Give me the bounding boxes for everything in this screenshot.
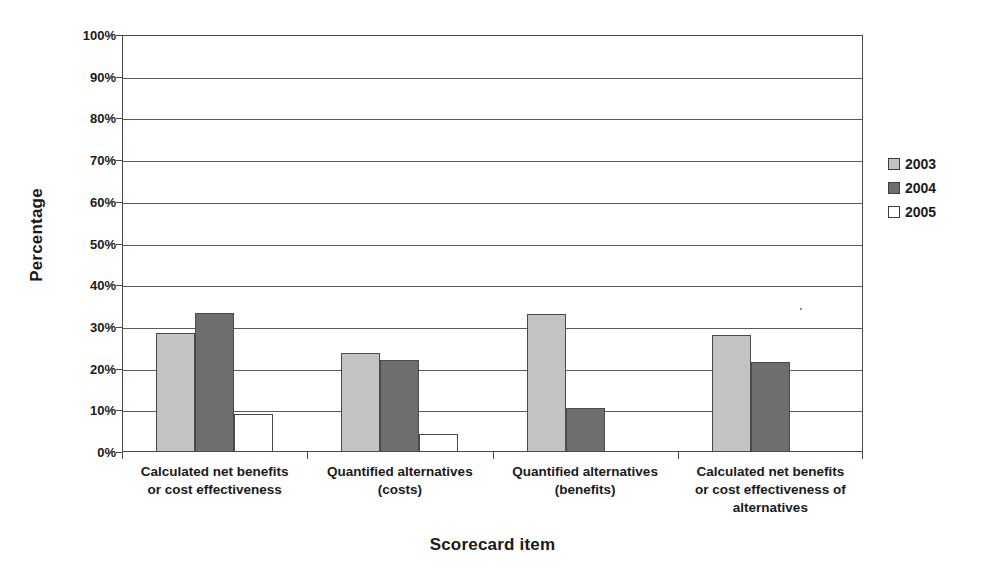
bar-chart: Percentage 0%10%20%30%40%50%60%70%80%90%… [0, 0, 996, 578]
legend: 200320042005 [888, 152, 984, 224]
legend-label: 2004 [905, 181, 936, 195]
y-axis-tick-label: 70% [90, 154, 116, 167]
legend-item-2003[interactable]: 2003 [888, 152, 984, 176]
y-axis-tick-label: 20% [90, 362, 116, 375]
x-axis-tick [493, 452, 494, 459]
legend-swatch-icon [888, 182, 900, 194]
bar-2004-2 [380, 360, 419, 452]
bar-series-layer [122, 35, 863, 452]
y-axis-tick-label: 0% [97, 446, 116, 459]
x-axis-category-label: Calculated net benefitsor cost effective… [110, 463, 319, 499]
legend-label: 2003 [905, 157, 936, 171]
x-axis-category-label: Quantified alternatives(costs) [295, 463, 504, 499]
bar-group [307, 35, 492, 452]
bar-2003-2 [341, 353, 380, 452]
bar-2003-1 [156, 333, 195, 452]
y-axis-tick-label: 90% [90, 70, 116, 83]
x-axis-category-label: Calculated net benefitsor cost effective… [666, 463, 875, 517]
x-axis-title: Scorecard item [122, 535, 863, 555]
y-axis-title: Percentage [14, 0, 60, 470]
y-axis-tick-label: 40% [90, 279, 116, 292]
y-axis-tick-label: 80% [90, 112, 116, 125]
bar-2003-3 [527, 314, 566, 452]
x-axis-tick-marks [122, 452, 863, 460]
bar-2005-1 [234, 414, 273, 452]
x-axis-tick [307, 452, 308, 459]
y-axis-title-text: Percentage [27, 188, 47, 282]
legend-label: 2005 [905, 205, 936, 219]
scan-speck [800, 308, 802, 310]
y-axis-tick-label: 10% [90, 404, 116, 417]
bar-group [122, 35, 307, 452]
y-axis-tick-labels: 0%10%20%30%40%50%60%70%80%90%100% [62, 35, 116, 452]
x-axis-category-labels: Calculated net benefitsor cost effective… [122, 463, 863, 525]
legend-swatch-icon [888, 206, 900, 218]
y-axis-tick-label: 100% [83, 29, 116, 42]
bar-2004-4 [751, 362, 790, 452]
x-axis-tick [678, 452, 679, 459]
bar-2004-1 [195, 313, 234, 452]
y-axis-tick-label: 50% [90, 237, 116, 250]
bar-2003-4 [712, 335, 751, 452]
x-axis-category-label: Quantified alternatives(benefits) [481, 463, 690, 499]
y-axis-tick-label: 30% [90, 320, 116, 333]
legend-swatch-icon [888, 158, 900, 170]
bar-2005-2 [419, 434, 458, 452]
x-axis-tick [122, 452, 123, 459]
bar-group [493, 35, 678, 452]
legend-item-2005[interactable]: 2005 [888, 200, 984, 224]
bar-2004-3 [566, 408, 605, 452]
legend-item-2004[interactable]: 2004 [888, 176, 984, 200]
y-axis-tick-label: 60% [90, 195, 116, 208]
bar-group [678, 35, 863, 452]
x-axis-tick [862, 452, 863, 459]
